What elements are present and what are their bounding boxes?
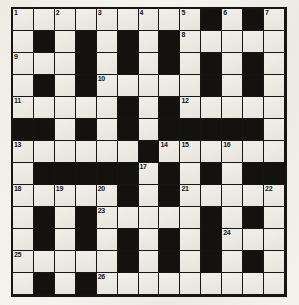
grid-cell[interactable] bbox=[264, 119, 285, 141]
grid-cell[interactable] bbox=[180, 229, 201, 251]
grid-cell[interactable] bbox=[34, 251, 55, 273]
grid-cell[interactable] bbox=[13, 75, 34, 97]
grid-cell[interactable] bbox=[222, 207, 243, 229]
grid-cell[interactable] bbox=[118, 75, 139, 97]
grid-cell[interactable] bbox=[243, 185, 264, 207]
grid-cell[interactable] bbox=[34, 53, 55, 75]
grid-cell[interactable] bbox=[55, 207, 76, 229]
grid-cell[interactable] bbox=[264, 141, 285, 163]
grid-cell[interactable]: 19 bbox=[55, 185, 76, 207]
grid-cell[interactable] bbox=[13, 207, 34, 229]
grid-cell[interactable]: 20 bbox=[97, 185, 118, 207]
grid-cell[interactable] bbox=[55, 97, 76, 119]
grid-cell[interactable] bbox=[97, 53, 118, 75]
grid-cell[interactable] bbox=[118, 141, 139, 163]
grid-cell[interactable] bbox=[264, 207, 285, 229]
grid-cell[interactable] bbox=[180, 273, 201, 295]
grid-cell[interactable] bbox=[55, 119, 76, 141]
grid-cell[interactable] bbox=[55, 75, 76, 97]
grid-cell[interactable] bbox=[180, 75, 201, 97]
grid-cell[interactable]: 8 bbox=[180, 31, 201, 53]
grid-cell[interactable] bbox=[34, 141, 55, 163]
grid-cell[interactable]: 26 bbox=[97, 273, 118, 295]
grid-cell[interactable]: 2 bbox=[55, 9, 76, 31]
grid-cell[interactable] bbox=[97, 141, 118, 163]
grid-cell[interactable] bbox=[159, 9, 180, 31]
grid-cell[interactable] bbox=[97, 251, 118, 273]
grid-cell[interactable]: 6 bbox=[222, 9, 243, 31]
grid-cell[interactable] bbox=[243, 273, 264, 295]
grid-cell[interactable] bbox=[222, 53, 243, 75]
grid-cell[interactable] bbox=[222, 251, 243, 273]
grid-cell[interactable] bbox=[55, 251, 76, 273]
grid-cell[interactable] bbox=[55, 229, 76, 251]
grid-cell[interactable] bbox=[76, 185, 97, 207]
grid-cell[interactable]: 18 bbox=[13, 185, 34, 207]
grid-cell[interactable] bbox=[139, 53, 160, 75]
grid-cell[interactable] bbox=[13, 229, 34, 251]
grid-cell[interactable] bbox=[264, 251, 285, 273]
grid-cell[interactable] bbox=[139, 273, 160, 295]
grid-cell[interactable] bbox=[159, 273, 180, 295]
grid-cell[interactable] bbox=[222, 185, 243, 207]
grid-cell[interactable] bbox=[139, 75, 160, 97]
grid-cell[interactable]: 17 bbox=[139, 163, 160, 185]
grid-cell[interactable] bbox=[118, 207, 139, 229]
grid-cell[interactable] bbox=[76, 97, 97, 119]
grid-cell[interactable] bbox=[180, 163, 201, 185]
grid-cell[interactable] bbox=[118, 273, 139, 295]
grid-cell[interactable] bbox=[97, 97, 118, 119]
grid-cell[interactable] bbox=[264, 75, 285, 97]
grid-cell[interactable] bbox=[222, 75, 243, 97]
grid-cell[interactable] bbox=[97, 229, 118, 251]
grid-cell[interactable] bbox=[76, 251, 97, 273]
grid-cell[interactable] bbox=[180, 207, 201, 229]
grid-cell[interactable] bbox=[243, 141, 264, 163]
grid-cell[interactable] bbox=[264, 53, 285, 75]
grid-cell[interactable] bbox=[55, 273, 76, 295]
grid-cell[interactable] bbox=[139, 251, 160, 273]
grid-cell[interactable] bbox=[222, 31, 243, 53]
grid-cell[interactable] bbox=[243, 229, 264, 251]
grid-cell[interactable] bbox=[34, 9, 55, 31]
grid-cell[interactable] bbox=[222, 273, 243, 295]
grid-cell[interactable] bbox=[139, 229, 160, 251]
grid-cell[interactable] bbox=[264, 229, 285, 251]
grid-cell[interactable] bbox=[201, 273, 222, 295]
grid-cell[interactable] bbox=[222, 163, 243, 185]
grid-cell[interactable] bbox=[55, 141, 76, 163]
grid-cell[interactable] bbox=[34, 185, 55, 207]
grid-cell[interactable] bbox=[139, 119, 160, 141]
grid-cell[interactable]: 16 bbox=[222, 141, 243, 163]
grid-cell[interactable]: 10 bbox=[97, 75, 118, 97]
grid-cell[interactable]: 7 bbox=[264, 9, 285, 31]
grid-cell[interactable] bbox=[13, 273, 34, 295]
grid-cell[interactable]: 13 bbox=[13, 141, 34, 163]
grid-cell[interactable]: 25 bbox=[13, 251, 34, 273]
grid-cell[interactable] bbox=[76, 9, 97, 31]
grid-cell[interactable]: 23 bbox=[97, 207, 118, 229]
grid-cell[interactable] bbox=[201, 97, 222, 119]
grid-cell[interactable] bbox=[264, 31, 285, 53]
grid-cell[interactable] bbox=[159, 207, 180, 229]
grid-cell[interactable] bbox=[222, 97, 243, 119]
grid-cell[interactable] bbox=[34, 97, 55, 119]
grid-cell[interactable] bbox=[55, 53, 76, 75]
grid-cell[interactable] bbox=[55, 31, 76, 53]
grid-cell[interactable] bbox=[201, 31, 222, 53]
grid-cell[interactable] bbox=[139, 97, 160, 119]
grid-cell[interactable]: 5 bbox=[180, 9, 201, 31]
grid-cell[interactable] bbox=[139, 207, 160, 229]
grid-cell[interactable] bbox=[97, 31, 118, 53]
grid-cell[interactable] bbox=[180, 53, 201, 75]
grid-cell[interactable]: 11 bbox=[13, 97, 34, 119]
grid-cell[interactable] bbox=[139, 31, 160, 53]
grid-cell[interactable]: 12 bbox=[180, 97, 201, 119]
grid-cell[interactable] bbox=[201, 185, 222, 207]
grid-cell[interactable]: 4 bbox=[139, 9, 160, 31]
grid-cell[interactable] bbox=[243, 97, 264, 119]
grid-cell[interactable] bbox=[264, 273, 285, 295]
grid-cell[interactable] bbox=[97, 119, 118, 141]
grid-cell[interactable] bbox=[264, 97, 285, 119]
grid-cell[interactable] bbox=[180, 251, 201, 273]
